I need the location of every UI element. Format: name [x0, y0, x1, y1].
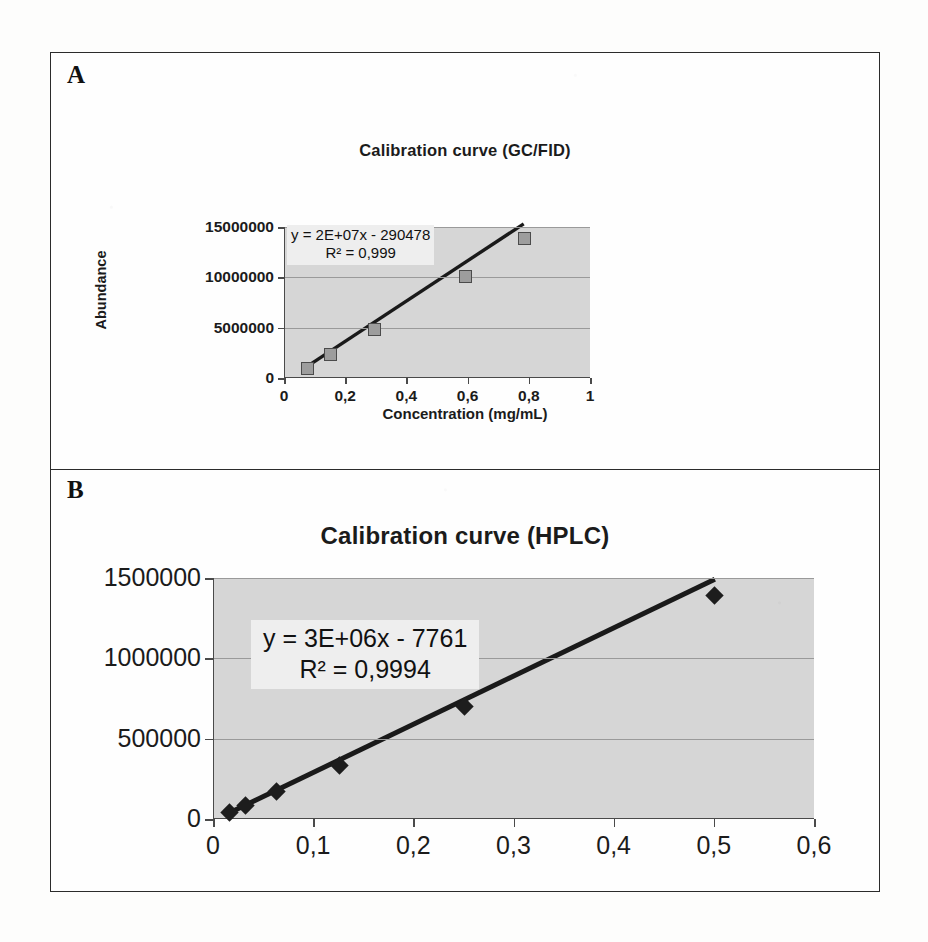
y-tick-mark [278, 328, 284, 330]
y-tick-mark [205, 819, 213, 821]
chart-gridline [285, 277, 590, 278]
x-tick-label: 0,6 [774, 831, 854, 860]
panel-a: A Calibration curve (GC/FID) Abundance y… [51, 53, 879, 470]
data-point-marker [301, 362, 314, 375]
x-tick-label: 0,5 [674, 831, 754, 860]
y-tick-mark [278, 227, 284, 229]
chart-b-equation-box: y = 3E+06x - 7761 R² = 0,9994 [251, 620, 479, 689]
panel-b: B Calibration curve (HPLC) y = 3E+06x - … [51, 470, 879, 890]
y-tick-label: 5000000 [51, 319, 274, 337]
chart-b-title: Calibration curve (HPLC) [51, 522, 879, 550]
y-tick-label: 500000 [51, 724, 201, 753]
y-tick-label: 0 [51, 369, 274, 387]
x-tick-mark [529, 378, 531, 384]
chart-gridline [285, 328, 590, 329]
chart-a-title: Calibration curve (GC/FID) [51, 141, 879, 160]
data-point-marker [518, 232, 531, 245]
x-tick-mark [284, 378, 286, 384]
y-tick-label: 0 [51, 804, 201, 833]
x-tick-mark [413, 819, 415, 827]
chart-a-equation-box: y = 2E+07x - 290478 R² = 0,999 [287, 225, 434, 265]
y-tick-label: 10000000 [51, 268, 274, 286]
y-tick-mark [278, 277, 284, 279]
x-tick-label: 0,4 [574, 831, 654, 860]
x-tick-label: 0,1 [273, 831, 353, 860]
x-tick-mark [590, 378, 592, 384]
x-tick-mark [714, 819, 716, 827]
figure-frame: A Calibration curve (GC/FID) Abundance y… [50, 52, 880, 892]
chart-a-r-squared: R² = 0,999 [291, 244, 430, 262]
y-tick-mark [205, 739, 213, 741]
x-tick-label: 0,3 [474, 831, 554, 860]
x-tick-label: 0 [173, 831, 253, 860]
data-point-marker [459, 270, 472, 283]
chart-a-x-axis-title: Concentration (mg/mL) [51, 405, 879, 422]
chart-gridline [214, 739, 814, 740]
y-tick-label: 15000000 [51, 218, 274, 236]
x-tick-mark [614, 819, 616, 827]
data-point-marker [324, 348, 337, 361]
chart-b-r-squared: R² = 0,9994 [263, 654, 467, 685]
y-tick-mark [205, 658, 213, 660]
x-tick-mark [313, 819, 315, 827]
x-tick-label: 1 [550, 387, 630, 405]
x-tick-mark [514, 819, 516, 827]
chart-a-equation: y = 2E+07x - 290478 [291, 226, 430, 244]
x-tick-mark [814, 819, 816, 827]
x-tick-mark [345, 378, 347, 384]
y-tick-mark [205, 578, 213, 580]
x-tick-mark [406, 378, 408, 384]
y-tick-label: 1500000 [51, 563, 201, 592]
x-tick-label: 0,2 [373, 831, 453, 860]
chart-gc-fid: Calibration curve (GC/FID) Abundance y =… [51, 53, 879, 469]
x-tick-mark [213, 819, 215, 827]
y-tick-label: 1000000 [51, 643, 201, 672]
chart-b-trendline [214, 578, 814, 818]
x-tick-mark [468, 378, 470, 384]
chart-gridline [214, 578, 814, 579]
chart-b-equation: y = 3E+06x - 7761 [263, 623, 467, 654]
chart-b-plot-area [213, 578, 814, 819]
data-point-marker [368, 323, 381, 336]
chart-hplc: Calibration curve (HPLC) y = 3E+06x - 77… [51, 470, 879, 890]
